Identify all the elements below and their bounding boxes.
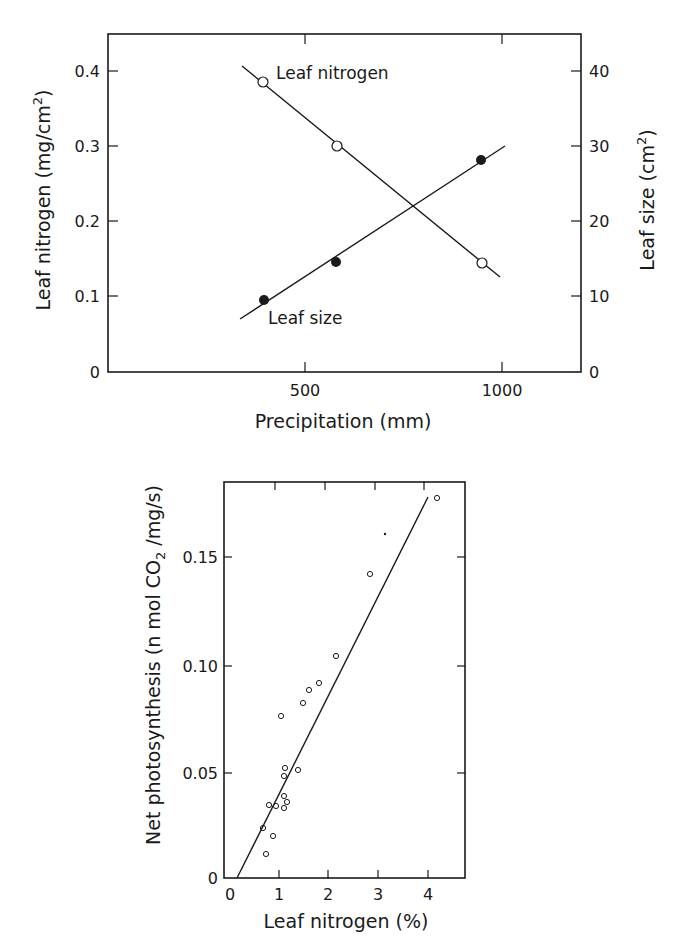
data-point bbox=[284, 799, 289, 804]
data-point bbox=[332, 141, 342, 151]
top-y-left-ticks bbox=[108, 71, 118, 296]
top-y-tick-0.1: 0.1 bbox=[75, 287, 100, 306]
data-point bbox=[306, 687, 311, 692]
top-yr-tick-30: 30 bbox=[589, 137, 609, 156]
bottom-x-tick-3: 3 bbox=[373, 885, 383, 904]
top-yr-tick-40: 40 bbox=[589, 62, 609, 81]
data-point bbox=[333, 653, 338, 658]
regression-line bbox=[237, 497, 428, 878]
top-chart: 500 1000 0 0.1 0.2 0.3 0.4 0 10 20 30 40… bbox=[30, 34, 658, 432]
data-point bbox=[295, 767, 300, 772]
top-y-tick-0.2: 0.2 bbox=[75, 212, 100, 231]
data-point bbox=[270, 833, 275, 838]
data-point bbox=[259, 295, 269, 305]
bottom-x-tick-0: 0 bbox=[225, 885, 235, 904]
leaf-nitrogen-fit-line bbox=[242, 66, 500, 277]
top-y-right-ticks bbox=[571, 71, 581, 296]
data-point bbox=[282, 765, 287, 770]
data-point bbox=[316, 680, 321, 685]
data-point bbox=[476, 155, 486, 165]
scatter-points bbox=[260, 495, 439, 856]
outlier-dot bbox=[384, 533, 386, 535]
bottom-y-tick-0.05: 0.05 bbox=[182, 764, 218, 783]
data-point bbox=[281, 805, 286, 810]
top-x-axis-title: Precipitation (mm) bbox=[255, 410, 432, 432]
data-point bbox=[331, 257, 341, 267]
data-point bbox=[281, 773, 286, 778]
data-point bbox=[367, 571, 372, 576]
top-yr-tick-20: 20 bbox=[589, 212, 609, 231]
top-x-tick-1000: 1000 bbox=[482, 381, 523, 400]
data-point bbox=[281, 793, 286, 798]
top-y-tick-0.3: 0.3 bbox=[75, 137, 100, 156]
top-plot-frame bbox=[108, 34, 581, 372]
top-y-tick-0.4: 0.4 bbox=[75, 62, 100, 81]
bottom-y-axis-title: Net photosynthesis (n mol CO2 /mg/s) bbox=[142, 485, 168, 845]
data-point bbox=[273, 803, 278, 808]
leaf-nitrogen-label: Leaf nitrogen bbox=[276, 63, 389, 83]
data-point bbox=[434, 495, 439, 500]
bottom-y-tick-0.10: 0.10 bbox=[182, 657, 218, 676]
data-point bbox=[300, 700, 305, 705]
data-point bbox=[263, 851, 268, 856]
bottom-y-tick-0.15: 0.15 bbox=[182, 548, 218, 567]
top-y-right-axis-title: Leaf size (cm2) bbox=[634, 129, 658, 270]
data-point bbox=[266, 802, 271, 807]
top-y-tick-0: 0 bbox=[90, 363, 100, 382]
top-y-left-axis-title: Leaf nitrogen (mg/cm2) bbox=[30, 90, 54, 311]
data-point bbox=[477, 258, 487, 268]
leaf-size-label: Leaf size bbox=[268, 308, 342, 328]
data-point bbox=[258, 77, 268, 87]
bottom-x-tick-4: 4 bbox=[423, 885, 433, 904]
top-x-tick-500: 500 bbox=[290, 381, 321, 400]
bottom-x-axis-title: Leaf nitrogen (%) bbox=[264, 910, 429, 932]
bottom-x-tick-1: 1 bbox=[274, 885, 284, 904]
bottom-chart: 0 1 2 3 4 0 0.05 0.10 0.15 Leaf nitrogen… bbox=[142, 482, 465, 932]
bottom-x-tick-2: 2 bbox=[323, 885, 333, 904]
data-point bbox=[278, 713, 283, 718]
top-yr-tick-0: 0 bbox=[589, 363, 599, 382]
figure: 500 1000 0 0.1 0.2 0.3 0.4 0 10 20 30 40… bbox=[0, 0, 685, 952]
leaf-size-points bbox=[259, 155, 486, 305]
bottom-y-tick-0: 0 bbox=[208, 869, 218, 888]
top-yr-tick-10: 10 bbox=[589, 287, 609, 306]
bottom-plot-frame bbox=[224, 482, 465, 878]
